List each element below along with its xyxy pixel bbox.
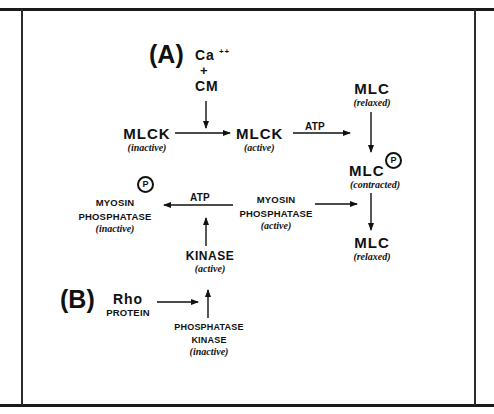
- mlck-active-state: (active): [236, 142, 292, 153]
- phosphatase-kinase-state: (inactive): [172, 346, 246, 357]
- mlc-relaxed-bottom-name: MLC: [342, 234, 402, 251]
- calmodulin-label: CM: [195, 78, 219, 94]
- mlc-relaxed-top-state: (relaxed): [342, 97, 402, 108]
- mlc-relaxed-top-node: MLC (relaxed): [342, 80, 402, 108]
- plus-sign: +: [200, 63, 209, 78]
- kinase-active-name: KINASE: [180, 249, 240, 263]
- mlc-contracted-state: (contracted): [344, 179, 406, 190]
- mlck-inactive-name: MLCK: [117, 125, 177, 142]
- kinase-active-state: (active): [180, 263, 240, 274]
- calcium-text: Ca: [195, 47, 215, 63]
- phosphate-icon-phosphatase: P: [137, 176, 154, 193]
- kinase-active-node: KINASE (active): [180, 249, 240, 274]
- myosin-phosphatase-inactive-line1: MYOSIN: [75, 195, 155, 210]
- myosin-phosphatase-inactive-state: (inactive): [75, 223, 155, 234]
- phosphatase-kinase-line2: KINASE: [172, 334, 246, 346]
- calcium-label: Ca++: [195, 47, 230, 63]
- mlc-relaxed-bottom-node: MLC (relaxed): [342, 234, 402, 262]
- mlc-relaxed-top-name: MLC: [342, 80, 402, 97]
- panel-a-label: (A): [149, 40, 184, 69]
- myosin-phosphatase-active-line2: PHOSPHATASE: [236, 207, 316, 220]
- phosphatase-kinase-inactive-node: PHOSPHATASE KINASE (inactive): [172, 320, 246, 357]
- atp-label-mlck: ATP: [305, 121, 325, 132]
- myosin-phosphatase-active-line1: MYOSIN: [236, 192, 316, 207]
- mlck-inactive-node: MLCK (inactive): [117, 125, 177, 153]
- rho-name: Rho: [103, 291, 153, 307]
- mlck-active-node: MLCK (active): [236, 125, 292, 153]
- myosin-phosphatase-active-state: (active): [236, 220, 316, 231]
- mlck-inactive-state: (inactive): [117, 142, 177, 153]
- panel-b-label: (B): [60, 285, 95, 314]
- rho-protein-node: Rho PROTEIN: [103, 291, 153, 318]
- mlck-active-name: MLCK: [236, 125, 292, 142]
- atp-label-phosphatase: ATP: [190, 192, 210, 203]
- myosin-phosphatase-inactive-node: MYOSIN PHOSPHATASE (inactive): [75, 195, 155, 234]
- mlc-relaxed-bottom-state: (relaxed): [342, 251, 402, 262]
- phosphate-icon-mlc: P: [385, 152, 402, 169]
- phosphatase-kinase-line1: PHOSPHATASE: [172, 320, 246, 334]
- myosin-phosphatase-inactive-line2: PHOSPHATASE: [75, 210, 155, 223]
- myosin-phosphatase-active-node: MYOSIN PHOSPHATASE (active): [236, 192, 316, 231]
- rho-sub: PROTEIN: [103, 307, 153, 318]
- calcium-charge: ++: [219, 47, 230, 56]
